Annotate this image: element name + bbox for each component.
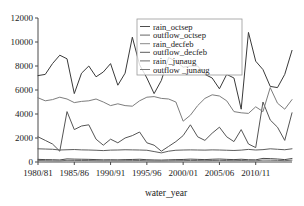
y-tick-label: 10000 [11,37,34,47]
x-tick-label: 1980/81 [23,168,53,178]
y-tick-label: 4000 [15,109,34,119]
x-tick-label: 2010/11 [241,168,270,178]
series-line-rain_decfeb [38,88,292,122]
chart-container: 0200040006000800010000120001980/811985/8… [0,0,304,206]
y-tick-label: 12000 [11,13,34,23]
y-tick-label: 8000 [15,61,34,71]
line-chart: 0200040006000800010000120001980/811985/8… [0,0,304,206]
y-tick-label: 0 [29,157,34,167]
series-line-outflow_octsep [38,102,292,151]
chart-legend[interactable]: rain_octsepoutflow_octseprain_decfeboutf… [137,19,242,75]
series-line-rain_junaug [38,149,292,153]
legend-label-outflow_junaug[interactable]: outflow _junaug [153,65,210,75]
x-tick-label: 2000/01 [168,168,198,178]
x-tick-label: 1990/91 [96,168,126,178]
x-tick-label: 2005/06 [205,168,235,178]
y-tick-label: 2000 [15,133,34,143]
series-line-outflow_decfeb [38,158,292,160]
y-tick-label: 6000 [15,85,34,95]
x-tick-label: 1985/86 [60,168,90,178]
x-axis-title: water_year [145,188,188,198]
x-tick-label: 1995/96 [132,168,162,178]
